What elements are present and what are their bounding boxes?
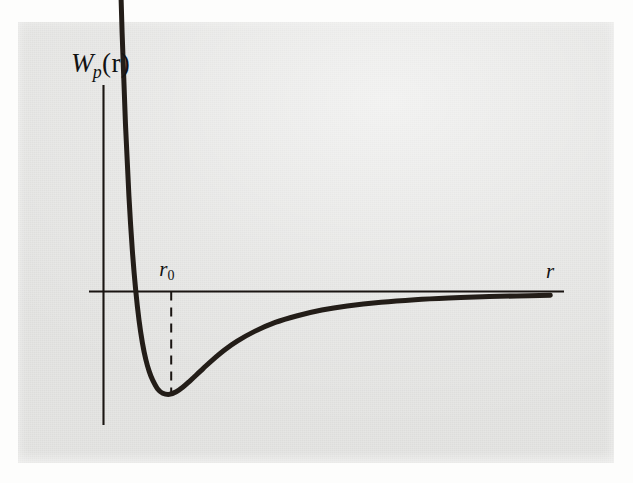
figure-root: Wp(r) r0 r xyxy=(0,0,633,483)
y-axis-label-subscript: p xyxy=(93,62,102,82)
y-axis-label-main: W xyxy=(71,48,94,78)
equilibrium-separation-label: r0 xyxy=(159,259,174,283)
equilibrium-label-subscript: 0 xyxy=(167,268,174,283)
x-axis-label: r xyxy=(546,261,554,282)
y-axis-label: Wp(r) xyxy=(71,50,130,81)
y-axis-label-argument: (r) xyxy=(102,48,130,78)
potential-energy-curve xyxy=(114,0,551,394)
